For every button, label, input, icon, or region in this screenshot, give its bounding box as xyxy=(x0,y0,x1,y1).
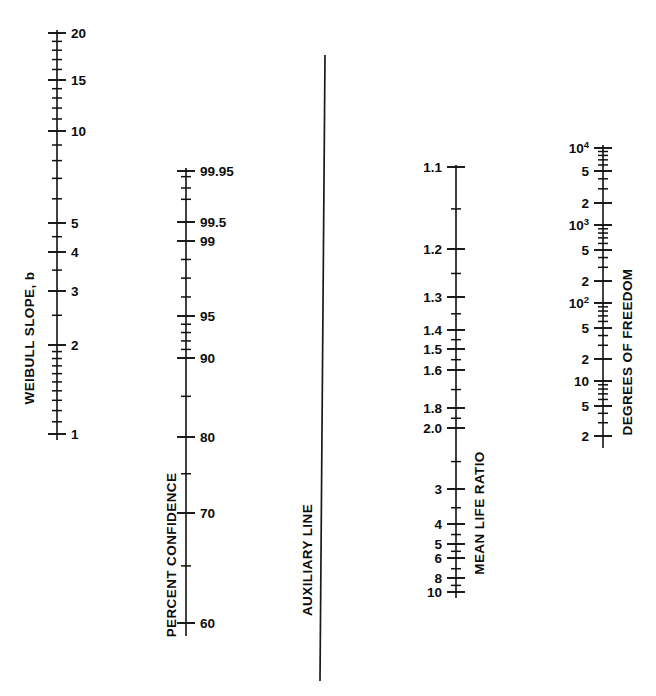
axis-title-auxiliary-line: AUXILIARY LINE xyxy=(300,504,315,616)
axis-title-weibull-slope: WEIBULL SLOPE, b xyxy=(22,272,37,405)
tick-label: 10 xyxy=(71,124,86,139)
tick-label: 4 xyxy=(71,245,79,260)
tick-label: 99 xyxy=(200,234,215,249)
tick-label: 2 xyxy=(581,274,589,289)
tick-label: 3 xyxy=(434,482,442,497)
tick-label: 5 xyxy=(434,537,442,552)
scale-weibull-slope: 20151054321WEIBULL SLOPE, b xyxy=(22,26,87,442)
tick-label: 70 xyxy=(200,506,215,521)
tick-label-exponent: 2 xyxy=(584,294,589,305)
scale-degrees-of-freedom: 1045210352102521052DEGREES OF FREEDOM xyxy=(569,139,635,448)
tick-label: 90 xyxy=(200,351,215,366)
tick-label: 15 xyxy=(71,73,87,88)
tick-label: 99.95 xyxy=(200,164,234,179)
tick-label: 8 xyxy=(434,571,442,586)
tick-label: 1.4 xyxy=(423,323,442,338)
tick-label: 1.5 xyxy=(423,342,442,357)
tick-label: 5 xyxy=(581,164,589,179)
nomogram-figure: 20151054321WEIBULL SLOPE, b99.9599.59995… xyxy=(0,0,656,696)
tick-label: 103 xyxy=(569,216,589,233)
tick-label: 95 xyxy=(200,309,216,324)
tick-label-exponent: 3 xyxy=(584,216,589,227)
tick-label: 20 xyxy=(71,26,86,41)
tick-label: 10 xyxy=(427,585,442,600)
tick-label: 99.5 xyxy=(200,215,227,230)
tick-label: 1.8 xyxy=(423,401,442,416)
tick-label: 4 xyxy=(434,517,442,532)
scale-mean-life-ratio: 1.11.21.31.41.51.61.82.03456810MEAN LIFE… xyxy=(423,160,487,600)
tick-label: 2 xyxy=(581,352,589,367)
tick-label: 5 xyxy=(581,399,589,414)
tick-label: 5 xyxy=(581,243,589,258)
tick-label: 1 xyxy=(71,427,79,442)
tick-label: 5 xyxy=(581,321,589,336)
nomogram-canvas: 20151054321WEIBULL SLOPE, b99.9599.59995… xyxy=(0,0,656,696)
tick-label: 2.0 xyxy=(423,421,442,436)
tick-label: 1.2 xyxy=(423,242,442,257)
auxiliary-axis-line xyxy=(320,55,325,681)
tick-label: 80 xyxy=(200,430,215,445)
tick-label: 3 xyxy=(71,284,79,299)
tick-label: 1.3 xyxy=(423,290,442,305)
tick-label: 60 xyxy=(200,616,215,631)
tick-label: 5 xyxy=(71,216,79,231)
tick-label: 2 xyxy=(581,196,589,211)
tick-label: 1.6 xyxy=(423,363,442,378)
tick-label: 2 xyxy=(581,429,589,444)
tick-label-exponent: 4 xyxy=(584,139,590,150)
scale-percent-confidence: 99.9599.5999590807060PERCENT CONFIDENCE xyxy=(164,164,234,638)
axis-title-percent-confidence: PERCENT CONFIDENCE xyxy=(164,473,179,638)
tick-label: 1.1 xyxy=(423,160,442,175)
tick-label: 2 xyxy=(71,338,79,353)
axis-title-degrees-of-freedom: DEGREES OF FREEDOM xyxy=(620,269,635,436)
scale-auxiliary-line: AUXILIARY LINE xyxy=(300,55,325,681)
tick-label: 6 xyxy=(434,551,442,566)
tick-label: 102 xyxy=(569,294,589,311)
tick-label: 104 xyxy=(569,139,590,156)
axis-title-mean-life-ratio: MEAN LIFE RATIO xyxy=(472,451,487,575)
tick-label: 10 xyxy=(574,374,589,389)
